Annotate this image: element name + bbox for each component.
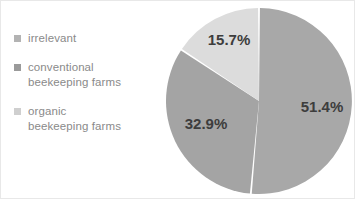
- legend-label-conventional-beekeeping-farms: conventional beekeeping farms: [28, 60, 121, 90]
- chart-legend: irrelevant conventional beekeeping farms…: [14, 31, 154, 148]
- legend-label-organic-beekeeping-farms: organic beekeeping farms: [28, 104, 121, 134]
- pie-slice-value-label: 51.4%: [301, 98, 344, 115]
- legend-item-organic-beekeeping-farms[interactable]: organic beekeeping farms: [14, 104, 154, 134]
- pie-plot-area: 51.4%32.9%15.7%: [164, 4, 355, 198]
- legend-swatch-icon-irrelevant: [14, 35, 21, 42]
- legend-item-irrelevant[interactable]: irrelevant: [14, 31, 154, 46]
- pie-chart-figure: irrelevant conventional beekeeping farms…: [0, 0, 355, 199]
- pie-slice-value-label: 15.7%: [208, 31, 251, 48]
- legend-item-conventional-beekeeping-farms[interactable]: conventional beekeeping farms: [14, 60, 154, 90]
- legend-swatch-icon-organic-beekeeping-farms: [14, 108, 21, 115]
- pie-svg: 51.4%32.9%15.7%: [164, 4, 355, 198]
- legend-swatch-icon-conventional-beekeeping-farms: [14, 64, 21, 71]
- legend-label-irrelevant: irrelevant: [28, 31, 76, 46]
- pie-slice-value-label: 32.9%: [185, 115, 228, 132]
